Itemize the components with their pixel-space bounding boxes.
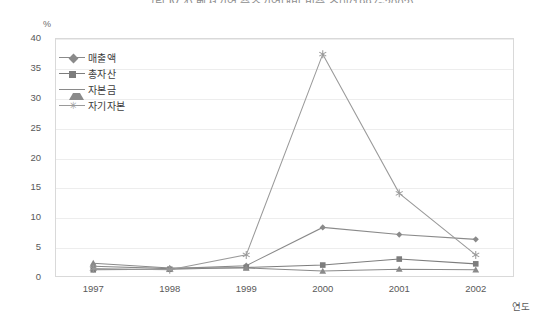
series-line (93, 227, 476, 268)
data-point-marker (319, 50, 326, 58)
data-point-marker (320, 262, 326, 268)
series-line (93, 54, 476, 270)
series-총자산 (90, 256, 478, 272)
line-chart: 그림 Ⅳ-4) 벤처기업 중소기업대비 비중 추이(1997~2002) % 0… (0, 0, 559, 326)
series-자기자본 (90, 50, 480, 274)
series-layer (0, 0, 559, 326)
data-point-marker (320, 224, 326, 230)
data-point-marker (396, 231, 402, 237)
data-point-marker (472, 251, 479, 259)
series-매출액 (90, 224, 479, 271)
data-point-marker (473, 236, 479, 242)
data-point-marker (473, 261, 479, 267)
data-point-marker (396, 256, 402, 262)
data-point-marker (396, 189, 403, 197)
